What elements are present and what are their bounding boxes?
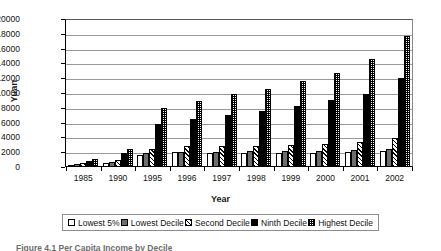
x-axis-tick-label: 1996 — [170, 173, 205, 183]
x-axis-tick-mark — [343, 167, 344, 171]
legend-swatch-icon — [121, 219, 128, 226]
legend-item[interactable]: Lowest 5% — [68, 218, 120, 228]
x-axis-tick-mark — [412, 167, 413, 171]
x-axis-tick-mark — [101, 167, 102, 171]
bar-group — [239, 20, 274, 167]
x-axis-tick-label: 1997 — [204, 173, 239, 183]
legend-item[interactable]: Ninth Decile — [251, 218, 307, 228]
x-axis-tick-mark — [135, 167, 136, 171]
bar — [196, 101, 202, 167]
bar-group — [274, 20, 309, 167]
x-axis-tick-label: 2000 — [308, 173, 343, 183]
figure-caption: Figure 4.1 Per Capita Income by Decile — [16, 243, 172, 251]
x-axis-tick-mark — [204, 167, 205, 171]
x-axis-tick-labels: 1985199019951996199719981999200020012002 — [66, 173, 412, 183]
bar-group — [66, 20, 101, 167]
x-axis-tick-mark — [170, 167, 171, 171]
bar — [369, 59, 375, 167]
bar-groups — [66, 20, 412, 167]
legend-item[interactable]: Lowest Decile — [121, 218, 184, 228]
legend-swatch-icon — [185, 219, 192, 226]
x-axis-tick-label: 1998 — [239, 173, 274, 183]
bar-group — [308, 20, 343, 167]
y-axis-tick-label: 12000 — [0, 74, 20, 82]
legend-label: Second Decile — [195, 218, 250, 228]
bar — [127, 149, 133, 167]
bar — [334, 73, 340, 167]
legend-swatch-icon — [68, 219, 75, 226]
legend-label: Lowest 5% — [78, 218, 120, 228]
x-axis-tick-mark — [274, 167, 275, 171]
x-axis-tick-mark — [66, 167, 67, 171]
legend-swatch-icon — [308, 219, 315, 226]
bar — [161, 108, 167, 167]
y-axis-tick-mark — [61, 167, 65, 168]
y-axis-tick-label: 6000 — [0, 119, 20, 127]
legend-item[interactable]: Highest Decile — [308, 218, 373, 228]
y-axis-tick-label: 18000 — [0, 30, 20, 38]
y-axis-tick-label: 0 — [0, 163, 20, 171]
y-axis-tick-label: 16000 — [0, 45, 20, 53]
x-axis-tick-mark — [377, 167, 378, 171]
bar-group — [343, 20, 378, 167]
legend-item[interactable]: Second Decile — [185, 218, 250, 228]
legend-label: Ninth Decile — [261, 218, 307, 228]
bar-group — [101, 20, 136, 167]
legend-label: Lowest Decile — [131, 218, 184, 228]
x-axis-tick-label: 1995 — [135, 173, 170, 183]
x-axis-tick-label: 2002 — [377, 173, 412, 183]
x-axis-tick-mark — [308, 167, 309, 171]
y-axis-tick-label: 20000 — [0, 15, 20, 23]
bar — [265, 89, 271, 167]
bar — [404, 36, 410, 167]
x-axis-tick-mark — [239, 167, 240, 171]
bar — [92, 159, 98, 167]
bar-group — [170, 20, 205, 167]
y-axis-tick-label: 14000 — [0, 59, 20, 67]
y-axis-tick-label: 8000 — [0, 104, 20, 112]
bar — [231, 94, 237, 167]
bar-group — [135, 20, 170, 167]
y-axis-tick-label: 10000 — [0, 89, 20, 97]
x-axis-tick-label: 2001 — [343, 173, 378, 183]
x-axis-title: Year — [0, 194, 441, 204]
bar-group — [204, 20, 239, 167]
x-axis-tick-label: 1985 — [66, 173, 101, 183]
chart-figure: Yuan 20000180001600014000120001000080006… — [0, 0, 441, 251]
chart-legend: Lowest 5%Lowest DecileSecond DecileNinth… — [62, 214, 379, 231]
bar-group — [377, 20, 412, 167]
y-axis-tick-label: 4000 — [0, 133, 20, 141]
legend-swatch-icon — [251, 219, 258, 226]
y-axis-tick-label: 2000 — [0, 148, 20, 156]
x-axis-tick-label: 1999 — [274, 173, 309, 183]
legend-label: Highest Decile — [318, 218, 373, 228]
bar — [300, 81, 306, 167]
x-axis-tick-label: 1990 — [101, 173, 136, 183]
